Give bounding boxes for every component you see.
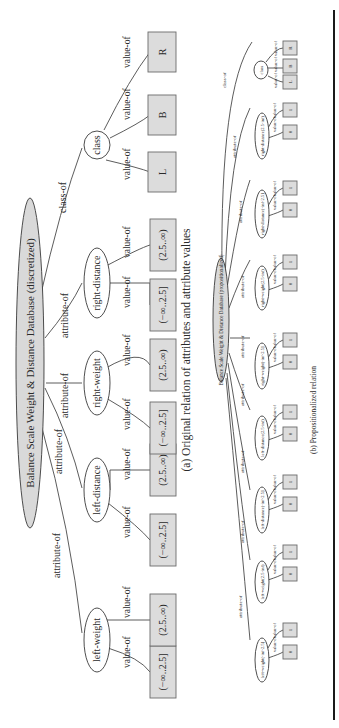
edge-label: attribute-of	[53, 428, 64, 474]
value-label: 0	[288, 432, 293, 435]
value-label: R	[157, 48, 168, 55]
value-label: (−∞..2.5]	[157, 654, 169, 691]
edge-value	[268, 132, 283, 138]
edge-label: value-of	[122, 226, 132, 258]
attribute-node-label: left-distance	[91, 465, 102, 515]
value-label: L	[157, 169, 168, 175]
value-label: B	[157, 111, 168, 118]
value-label: 1	[288, 260, 293, 263]
attribute-node-label: right-weight	[91, 358, 102, 408]
value-label: (2.5..∞)	[157, 454, 169, 485]
edge-label: attribute-of	[240, 275, 245, 298]
root-node-label: Balance Scale Weight & Distance Database…	[24, 238, 37, 488]
prop-node-label: left-weight(2.5-inf)	[260, 564, 265, 599]
prop-node: value-of value-of left-weight(-inf-2.5] …	[255, 623, 297, 682]
value-label: (2.5..∞)	[157, 349, 169, 380]
value-label: B	[288, 64, 293, 68]
prop-node: value-of value-of right-weight(2.5-inf) …	[255, 255, 297, 310]
edge-label: attribute-of	[240, 383, 245, 406]
class-node-label: class	[91, 135, 102, 155]
edge-label: value-of	[122, 506, 132, 538]
value-label: 1	[288, 480, 293, 483]
value-label: (2.5..∞)	[157, 229, 169, 260]
value-label: R	[288, 46, 293, 50]
value-label: 1	[288, 338, 293, 341]
prop-node-label: right-distance(2.5-inf)	[260, 116, 265, 156]
value-label: (2.5..∞)	[157, 604, 169, 635]
edge-label: value-of	[272, 637, 277, 652]
value-label: 1	[288, 550, 293, 553]
prop-node: value-of value-of left-distance(-inf-2.5…	[255, 475, 297, 533]
value-label: L	[288, 80, 293, 83]
edge-label: value-of	[122, 276, 132, 308]
figure-a: attribute-of attribute-of attribute-of a…	[16, 32, 193, 698]
prop-node: value-of value-of left-weight(2.5-inf) 0…	[255, 545, 297, 603]
caption-a: (a) Original relation of attributes and …	[180, 228, 193, 472]
edge-label: value-of	[122, 334, 132, 366]
value-label: 0	[288, 572, 293, 575]
edge-value	[268, 574, 283, 580]
prop-class-node: value-of value-of value-of class L B R	[254, 41, 297, 89]
edge-label: value-of	[122, 148, 132, 180]
edge-label: value-of	[273, 41, 278, 56]
edge-label: value-of	[272, 103, 277, 118]
prop-node: value-of value-of right-distance(2.5-inf…	[255, 103, 297, 159]
edge-label: value-of	[272, 195, 277, 210]
edge-label: value-of	[122, 636, 132, 668]
edge-label: value-of	[272, 545, 277, 560]
page-rule	[333, 10, 335, 720]
value-label: 0	[288, 208, 293, 211]
edge-label: value-of	[272, 419, 277, 434]
attribute-node-label: left-weight	[91, 618, 102, 662]
edge-label: value-of	[272, 269, 277, 284]
value-label: 1	[288, 628, 293, 631]
figure-stage: attribute-of attribute-of attribute-of a…	[0, 0, 339, 728]
value-label: 0	[288, 502, 293, 505]
edge-label: value-of	[122, 36, 132, 68]
value-label: 0	[288, 282, 293, 285]
prop-node: value-of value-of right-weight(-inf-2.5]…	[255, 333, 297, 389]
value-label: 0	[288, 650, 293, 653]
edge-label: attribute-of	[59, 372, 70, 418]
caption-b: (b) Propositionalized relation	[309, 366, 318, 454]
edge-label: attribute-of	[240, 450, 245, 473]
edge-label: value-of	[122, 586, 132, 618]
value-label: (−∞..2.5]	[157, 410, 169, 447]
edge-label: value-of	[122, 88, 132, 120]
edge-label: class-of	[57, 181, 68, 213]
edge-label: attribute-of	[240, 335, 245, 358]
prop-node-label: right-weight(2.5-inf)	[260, 269, 265, 307]
edge-value	[268, 504, 283, 510]
value-label: 0	[288, 130, 293, 133]
edge-label: value-of	[272, 405, 277, 420]
diagram-canvas: attribute-of attribute-of attribute-of a…	[0, 0, 339, 728]
edge-label: value-of	[272, 117, 277, 132]
edge-label: value-of	[272, 623, 277, 638]
value-label: 0	[288, 360, 293, 363]
edge-label: value-of	[272, 255, 277, 270]
edge-label: value-of	[273, 57, 278, 72]
edge-label: attribute-of	[238, 595, 243, 618]
edge-value	[268, 284, 283, 290]
value-label: 1	[288, 186, 293, 189]
edge-label: attribute-of	[59, 292, 70, 338]
edge-label: class-of	[222, 72, 227, 88]
edge-label: attribute-of	[238, 200, 243, 223]
edge-label: attribute-of	[240, 520, 245, 543]
edge-value	[268, 210, 283, 216]
edge-label: value-of	[272, 559, 277, 574]
edge-root-class	[40, 148, 82, 298]
prop-node-label: class	[259, 65, 264, 74]
edge-label: value-of	[273, 73, 278, 88]
edge-value	[268, 362, 283, 368]
value-label: 1	[288, 108, 293, 111]
edge-label: value-of	[122, 448, 132, 480]
root-node-b-label: Balance Scale Weight & Distance Database…	[218, 254, 225, 385]
value-label: (−∞..2.5]	[157, 287, 169, 324]
value-label: 1	[288, 410, 293, 413]
prop-node-label: right-weight(-inf-2.5]	[260, 346, 265, 385]
prop-node: value-of value-of right-distance(-inf-2.…	[255, 181, 297, 238]
edge-label: value-of	[272, 347, 277, 362]
edge-label: value-of	[272, 489, 277, 504]
prop-node-label: left-distance(-inf-2.5]	[260, 490, 265, 529]
